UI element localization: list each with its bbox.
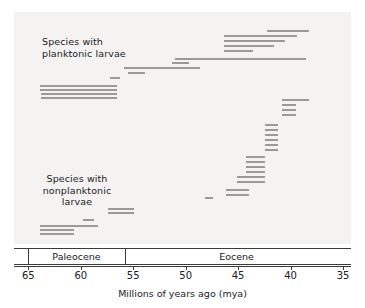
figure-container: Species with planktonic larvae Species w… [0,0,365,308]
species-range-bar [265,139,278,141]
species-range-bar [205,197,213,199]
species-range-bar [237,181,265,183]
species-range-bar [246,156,265,158]
species-range-bar [172,62,189,64]
x-axis-tick-label: 55 [118,270,148,281]
x-axis-line [14,266,351,267]
species-range-bar [226,194,249,196]
x-axis-title: Millions of years ago (mya) [0,288,365,299]
species-range-bar [246,171,265,173]
species-range-bar [40,233,75,235]
species-range-bar [224,50,252,52]
epoch-band: PaleoceneEocene [14,248,351,265]
species-range-bar [108,208,134,210]
species-range-bar [226,189,249,191]
species-range-bar [265,144,278,146]
nonplanktonic-group-label: Species with nonplanktonic larvae [40,173,114,208]
species-range-bar [175,58,306,60]
species-range-bar [282,114,296,116]
species-range-bar [110,77,119,79]
species-range-bar [108,212,134,214]
species-range-bar [282,104,296,106]
planktonic-group-label: Species with planktonic larvae [42,36,126,59]
epoch-label-paleocene: Paleocene [28,249,125,264]
species-range-bar [41,97,118,99]
species-range-bar [246,161,265,163]
x-axis-tick-label: 60 [66,270,96,281]
species-range-bar [224,45,273,47]
species-range-bar [237,176,265,178]
species-range-bar [265,124,278,126]
species-range-bar [282,99,309,101]
species-range-bar [224,40,285,42]
species-range-bar [282,109,296,111]
x-axis-tick-label: 40 [276,270,306,281]
epoch-divider [28,249,29,264]
species-range-bar [41,93,118,95]
species-range-bar [40,85,118,87]
species-range-bar [40,225,98,227]
x-axis-tick-label: 65 [13,270,43,281]
species-range-bar [224,35,296,37]
x-axis-tick-label: 35 [328,270,358,281]
x-axis-tick-label: 45 [223,270,253,281]
species-range-bar [267,30,309,32]
species-range-bar [40,229,75,231]
species-range-bar [40,89,118,91]
species-range-bar [124,67,201,69]
species-range-bar [265,129,278,131]
species-range-bar [83,219,95,221]
species-range-bar [246,166,265,168]
species-range-bar [265,149,278,151]
x-axis-tick-label: 50 [171,270,201,281]
species-range-bar [265,134,278,136]
epoch-divider [125,249,126,264]
plot-area: Species with planktonic larvae Species w… [14,12,351,244]
epoch-label-eocene: Eocene [125,249,348,264]
species-range-bar [128,72,145,74]
